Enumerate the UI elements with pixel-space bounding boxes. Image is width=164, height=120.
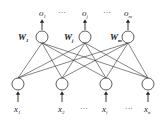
output-label-m: om	[124, 8, 133, 19]
output-label-1: o1	[39, 8, 46, 19]
ellipsis-bottom-2: ···	[125, 104, 133, 113]
weight-label-j: Wj	[64, 32, 74, 43]
weight-label-1: W1	[18, 32, 29, 43]
ellipsis-top-2: ···	[103, 8, 111, 17]
input-label-i: xi	[101, 104, 108, 115]
input-arrows	[18, 93, 148, 102]
input-neuron-1	[12, 78, 24, 90]
output-neuron-1	[36, 31, 48, 43]
output-labels: o1 oj om ··· ···	[39, 8, 133, 19]
ellipsis-top-1: ···	[58, 8, 66, 17]
output-arrows	[42, 21, 128, 30]
connections	[18, 43, 148, 78]
output-neuron-j	[79, 31, 91, 43]
input-label-1: x1	[13, 104, 21, 115]
neural-network-diagram: o1 oj om ··· ··· W1 Wj Wm x1 x2 xi xn ··…	[0, 0, 164, 120]
weight-labels: W1 Wj Wm	[18, 32, 122, 43]
output-label-j: oj	[82, 8, 89, 19]
output-neuron-m	[122, 31, 134, 43]
input-labels: x1 x2 xi xn ··· ···	[13, 104, 151, 115]
input-neuron-n	[142, 78, 154, 90]
input-label-2: x2	[57, 104, 65, 115]
input-neuron-i	[100, 78, 112, 90]
ellipsis-bottom-1: ···	[80, 104, 88, 113]
input-layer	[12, 78, 154, 90]
input-label-n: xn	[143, 104, 151, 115]
input-neuron-2	[56, 78, 68, 90]
weight-label-m: Wm	[110, 32, 122, 43]
